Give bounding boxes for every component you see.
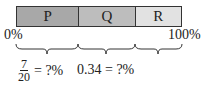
denominator: 20: [18, 71, 30, 83]
brace-r: [135, 44, 182, 54]
segment-r-label: R: [153, 8, 163, 25]
segment-r: R: [135, 7, 181, 26]
expression-p: 7 20 = ?%: [18, 58, 63, 83]
segment-p: P: [17, 7, 78, 26]
expression-q: 0.34 = ?%: [77, 62, 134, 78]
brace-q: [78, 44, 135, 54]
end-label: 100%: [168, 27, 201, 43]
segment-q: Q: [78, 7, 134, 26]
segment-q-label: Q: [101, 8, 112, 25]
percent-bar: P Q R: [16, 6, 182, 27]
fraction: 7 20: [18, 58, 30, 83]
braces: [0, 42, 204, 58]
expression-p-rest: = ?%: [34, 63, 63, 79]
segment-p-label: P: [43, 8, 51, 25]
brace-p: [16, 44, 78, 54]
start-label: 0%: [4, 27, 23, 43]
